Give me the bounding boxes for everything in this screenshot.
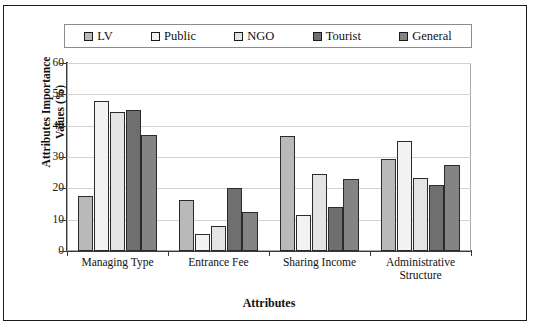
bar-group	[179, 63, 257, 251]
y-axis-title: Attributes ImportanceValues (%)	[39, 22, 67, 202]
x-axis-tick	[168, 251, 169, 256]
bar-tourist-1	[126, 110, 141, 251]
bar-group	[280, 63, 358, 251]
x-category-label-line: Entrance Fee	[168, 256, 269, 269]
legend-item-tourist: Tourist	[313, 30, 361, 43]
bar-public-2	[195, 234, 210, 251]
bar-group	[381, 63, 459, 251]
legend-label: NGO	[247, 30, 274, 43]
x-category-label-line: Managing Type	[67, 256, 168, 269]
y-axis-title-line: Attributes Importance	[39, 22, 53, 202]
legend-swatch-icon	[234, 32, 243, 41]
y-axis-tick	[60, 157, 66, 158]
y-axis-title-line: Values (%)	[53, 22, 67, 202]
bar-lv-3	[280, 136, 295, 251]
legend-swatch-icon	[84, 32, 93, 41]
chart-legend: LVPublicNGOTouristGeneral	[64, 24, 472, 48]
bar-general-1	[141, 135, 156, 251]
y-axis-tick	[60, 63, 66, 64]
bar-public-4	[397, 141, 412, 251]
legend-item-lv: LV	[84, 30, 113, 43]
plot-area	[67, 63, 471, 251]
legend-swatch-icon	[313, 32, 322, 41]
bar-general-2	[242, 212, 257, 251]
bar-ngo-3	[312, 174, 327, 251]
x-axis-tick	[370, 251, 371, 256]
bar-lv-4	[381, 159, 396, 251]
bar-lv-1	[78, 196, 93, 251]
bar-ngo-2	[211, 226, 226, 251]
bar-lv-2	[179, 200, 194, 251]
legend-swatch-icon	[151, 32, 160, 41]
x-axis-tick	[67, 251, 68, 256]
bar-public-3	[296, 215, 311, 251]
x-axis-title: Attributes	[67, 296, 471, 311]
bar-ngo-4	[413, 178, 428, 251]
bar-public-1	[94, 101, 109, 251]
y-tick-label: 0	[24, 245, 64, 257]
y-axis-tick	[60, 251, 66, 252]
x-axis-tick	[471, 251, 472, 256]
bar-group	[78, 63, 156, 251]
legend-label: Public	[164, 30, 196, 43]
x-category-label: Sharing Income	[269, 256, 370, 269]
y-axis-tick	[60, 188, 66, 189]
legend-item-public: Public	[151, 30, 196, 43]
bar-tourist-4	[429, 185, 444, 251]
x-category-label-line: Sharing Income	[269, 256, 370, 269]
bar-general-3	[343, 179, 358, 251]
y-axis-tick	[60, 94, 66, 95]
legend-label: General	[412, 30, 452, 43]
x-category-label: AdministrativeStructure	[370, 256, 471, 282]
legend-item-general: General	[399, 30, 452, 43]
y-axis-tick	[60, 126, 66, 127]
x-category-label-line: Administrative	[370, 256, 471, 269]
legend-label: LV	[97, 30, 113, 43]
y-axis-tick	[60, 220, 66, 221]
x-category-label: Entrance Fee	[168, 256, 269, 269]
x-category-label-line: Structure	[370, 269, 471, 282]
legend-label: Tourist	[326, 30, 361, 43]
x-category-label: Managing Type	[67, 256, 168, 269]
legend-item-ngo: NGO	[234, 30, 274, 43]
legend-swatch-icon	[399, 32, 408, 41]
chart-frame: LVPublicNGOTouristGeneral 0102030405060 …	[3, 5, 527, 321]
y-tick-label: 10	[24, 214, 64, 226]
bar-tourist-2	[227, 188, 242, 251]
bar-ngo-1	[110, 112, 125, 251]
x-axis-tick	[269, 251, 270, 256]
bar-general-4	[444, 165, 459, 251]
bar-tourist-3	[328, 207, 343, 251]
